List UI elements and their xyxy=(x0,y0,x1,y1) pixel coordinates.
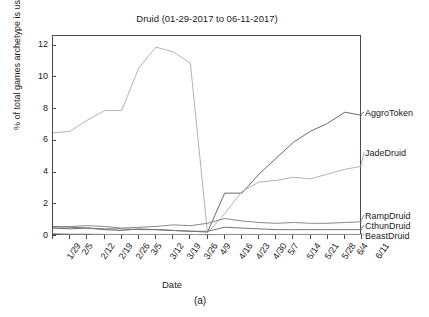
x-tick-mark xyxy=(189,235,190,239)
x-tick-mark xyxy=(361,235,362,239)
x-tick-mark xyxy=(104,235,105,239)
series-lines xyxy=(53,36,362,236)
x-tick-mark xyxy=(241,235,242,239)
legend-label-jadedruid: JadeDruid xyxy=(365,148,406,158)
x-tick-label: 2/19 xyxy=(116,241,134,261)
y-tick-label: 6 xyxy=(26,135,48,144)
series-line-jadedruid xyxy=(53,47,362,233)
x-tick-mark xyxy=(172,235,173,239)
x-tick-mark xyxy=(327,235,328,239)
x-tick-mark xyxy=(52,235,53,239)
figure-caption: (a) xyxy=(0,295,400,306)
legend-label-cthundruid: CthunDruid xyxy=(365,221,411,231)
legend-label-aggrotoken: AggroToken xyxy=(365,108,413,118)
x-tick-marks xyxy=(52,235,362,240)
y-tick-label: 2 xyxy=(26,199,48,208)
x-tick-mark xyxy=(310,235,311,239)
x-tick-label: 2/12 xyxy=(99,241,117,261)
chart-title: Druid (01-29-2017 to 06-11-2017) xyxy=(52,13,362,24)
figure-druid-archetype-usage: Druid (01-29-2017 to 06-11-2017) % of to… xyxy=(0,0,429,317)
y-tick-label: 12 xyxy=(26,40,48,49)
legend-label-rampdruid: RampDruid xyxy=(365,211,411,221)
x-tick-mark xyxy=(86,235,87,239)
series-line-aggrotoken xyxy=(53,112,362,232)
x-tick-label: 4/23 xyxy=(254,241,272,261)
x-tick-mark xyxy=(69,235,70,239)
x-tick-label: 3/12 xyxy=(168,241,186,261)
x-tick-mark xyxy=(292,235,293,239)
x-tick-label: 6/11 xyxy=(373,241,391,261)
x-tick-label: 4/16 xyxy=(236,241,254,261)
x-tick-label: 4/9 xyxy=(217,241,232,257)
x-tick-label: 6/4 xyxy=(354,241,369,257)
x-tick-mark xyxy=(258,235,259,239)
y-tick-label: 0 xyxy=(26,231,48,240)
series-line-rampdruid xyxy=(53,219,362,229)
x-tick-label: 5/21 xyxy=(322,241,340,261)
x-tick-label: 3/19 xyxy=(185,241,203,261)
y-tick-label: 4 xyxy=(26,167,48,176)
plot-area xyxy=(52,35,361,235)
x-tick-mark xyxy=(121,235,122,239)
x-tick-mark xyxy=(207,235,208,239)
x-tick-mark xyxy=(138,235,139,239)
y-axis-label: % of total games archetype is used xyxy=(12,0,22,140)
x-tick-mark xyxy=(275,235,276,239)
x-tick-mark xyxy=(224,235,225,239)
x-tick-label: 5/7 xyxy=(286,241,301,257)
y-tick-label: 10 xyxy=(26,72,48,81)
x-tick-mark xyxy=(155,235,156,239)
x-axis-label: Date xyxy=(162,279,182,290)
legend-label-beastdruid: BeastDruid xyxy=(365,231,410,241)
y-tick-label: 8 xyxy=(26,104,48,113)
x-tick-label: 5/14 xyxy=(305,241,323,261)
x-tick-label: 2/5 xyxy=(80,241,95,257)
x-tick-label: 3/5 xyxy=(148,241,163,257)
x-tick-mark xyxy=(344,235,345,239)
y-tick-labels: 024681012 xyxy=(22,35,48,235)
x-tick-labels: 1/292/52/122/192/263/53/123/193/264/94/1… xyxy=(0,241,429,283)
